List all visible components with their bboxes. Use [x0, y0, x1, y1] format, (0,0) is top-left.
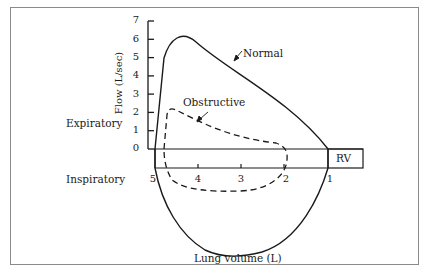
- x-tick-3: 3: [236, 174, 246, 184]
- x-tick-4: 4: [193, 174, 203, 184]
- y-tick-4: 4: [131, 70, 141, 80]
- obstructive-loop-curve: [164, 109, 287, 191]
- y-tick-5: 5: [131, 52, 141, 62]
- x-tick-5: 5: [148, 174, 158, 184]
- y-tick-1: 1: [131, 125, 141, 135]
- normal-annotation: Normal: [243, 48, 283, 59]
- volume-axis-band: [155, 149, 363, 168]
- y-tick-3: 3: [131, 89, 141, 99]
- inspiratory-label: Inspiratory: [66, 174, 125, 185]
- obstructive-annotation: Obstructive: [183, 97, 245, 108]
- y-tick-7: 7: [131, 15, 141, 25]
- y-tick-0: 0: [131, 143, 141, 153]
- y-tick-2: 2: [131, 107, 141, 117]
- y-axis-title: Flow (L/sec): [114, 48, 124, 118]
- x-tick-1: 1: [325, 174, 335, 184]
- x-axis-title: Lung volume (L): [194, 253, 282, 264]
- rv-label: RV: [336, 153, 351, 164]
- y-tick-6: 6: [131, 34, 141, 44]
- annotation-arrows: [197, 51, 242, 122]
- expiratory-label: Expiratory: [66, 118, 122, 129]
- normal-loop-curve: [155, 36, 328, 256]
- y-axis: [148, 21, 155, 149]
- flow-volume-plot: [0, 0, 422, 280]
- x-tick-2: 2: [281, 174, 291, 184]
